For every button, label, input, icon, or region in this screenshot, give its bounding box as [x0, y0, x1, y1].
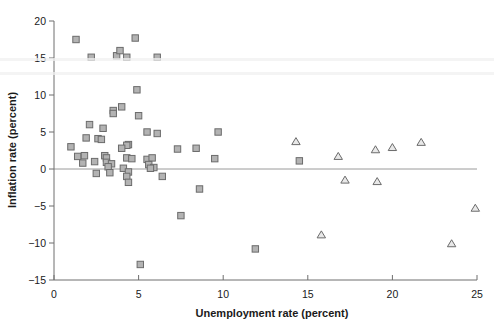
data-point-triangle: [334, 152, 342, 159]
data-point-square: [91, 158, 97, 164]
data-point-square: [118, 104, 124, 110]
y-axis-title: Inflation rate (percent): [6, 92, 18, 208]
data-point-square: [74, 153, 80, 159]
data-point-triangle: [447, 240, 455, 247]
y-tick-label: −15: [28, 274, 46, 286]
x-tick-label: 25: [471, 288, 483, 300]
data-point-square: [147, 165, 153, 171]
x-tick-label: 20: [387, 288, 399, 300]
x-tick-label: 10: [217, 288, 229, 300]
data-point-square: [80, 160, 86, 166]
data-point-triangle: [388, 144, 396, 151]
data-point-square: [86, 121, 92, 127]
data-point-square: [73, 36, 79, 42]
data-point-square: [107, 170, 113, 176]
scanline-artifact-2: [0, 72, 494, 75]
y-tick-label: 20: [34, 15, 46, 27]
data-point-square: [134, 87, 140, 93]
scatter-chart: 20151050−5−10−150510152025 Inflation rat…: [0, 0, 494, 323]
data-point-square: [178, 212, 184, 218]
data-point-square: [196, 186, 202, 192]
data-point-square: [129, 155, 135, 161]
data-point-square: [81, 152, 87, 158]
data-point-square: [252, 246, 258, 252]
data-point-square: [212, 155, 218, 161]
data-point-square: [98, 136, 104, 142]
x-axis-title: Unemployment rate (percent): [196, 307, 349, 319]
y-tick-label: 0: [40, 163, 46, 175]
data-point-square: [132, 35, 138, 41]
plot-area: 20151050−5−10−150510152025 Inflation rat…: [0, 0, 494, 323]
data-point-triangle: [471, 204, 479, 211]
y-tick-label: 10: [34, 89, 46, 101]
y-tick-label: −5: [34, 200, 46, 212]
data-point-triangle: [292, 138, 300, 145]
data-point-triangle: [317, 231, 325, 238]
x-tick-label: 0: [51, 288, 57, 300]
x-tick-label: 5: [136, 288, 142, 300]
data-point-square: [154, 130, 160, 136]
y-tick-label: −10: [28, 237, 46, 249]
data-point-triangle: [373, 178, 381, 185]
data-point-triangle: [417, 138, 425, 145]
data-point-square: [110, 110, 116, 116]
data-point-square: [215, 129, 221, 135]
data-point-square: [83, 135, 89, 141]
data-point-square: [125, 179, 131, 185]
data-point-square: [193, 145, 199, 151]
data-point-square: [118, 145, 124, 151]
data-point-square: [296, 158, 302, 164]
data-point-layer: [68, 35, 480, 268]
data-point-square: [174, 146, 180, 152]
y-tick-label: 5: [40, 126, 46, 138]
data-point-square: [135, 113, 141, 119]
data-point-triangle: [341, 176, 349, 183]
data-point-triangle: [371, 146, 379, 153]
data-point-square: [93, 170, 99, 176]
x-tick-label: 15: [302, 288, 314, 300]
data-point-square: [159, 173, 165, 179]
data-point-square: [68, 144, 74, 150]
data-point-square: [100, 125, 106, 131]
data-point-square: [117, 47, 123, 53]
scanline-artifact-1: [0, 58, 494, 61]
data-point-square: [144, 129, 150, 135]
data-point-square: [137, 261, 143, 267]
data-point-square: [149, 155, 155, 161]
